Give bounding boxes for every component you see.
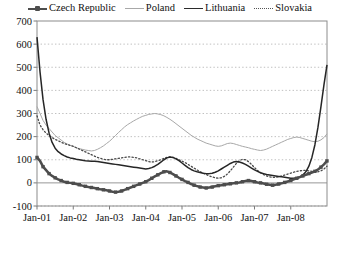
legend-line-icon-lithuania: [184, 4, 203, 13]
ytick-label-500: 500: [16, 62, 32, 73]
ytick-label-100: 100: [16, 154, 32, 165]
legend-item-lithuania: Lithuania: [184, 2, 245, 14]
ytick-label-700: 700: [16, 16, 32, 27]
ytick-label-400: 400: [16, 85, 32, 96]
xtick-label-Jan-04: Jan-04: [132, 212, 161, 223]
xtick-label-Jan-03: Jan-03: [96, 212, 124, 223]
xtick-label-Jan-07: Jan-07: [241, 212, 269, 223]
xtick-label-Jan-06: Jan-06: [204, 212, 232, 223]
legend-label-lithuania: Lithuania: [205, 2, 245, 14]
legend-marker-icon-czech-republic: [28, 4, 47, 13]
xtick-label-Jan-05: Jan-05: [168, 212, 196, 223]
chart-screenshot: Czech Republic Poland Lithuania Slovakia…: [0, 0, 340, 265]
xtick-label-Jan-08: Jan-08: [277, 212, 305, 223]
legend-item-slovakia: Slovakia: [254, 2, 312, 14]
chart-plot-container: -1000100200300400500600700Jan-01Jan-02Ja…: [0, 14, 340, 265]
legend-label-poland: Poland: [146, 2, 175, 14]
ytick-label-600: 600: [16, 39, 32, 50]
legend-label-czech-republic: Czech Republic: [49, 2, 116, 14]
xtick-label-Jan-02: Jan-02: [59, 212, 87, 223]
ytick-label-200: 200: [16, 131, 32, 142]
legend-item-poland: Poland: [125, 2, 175, 14]
ytick-label-300: 300: [16, 108, 32, 119]
chart-legend: Czech Republic Poland Lithuania Slovakia: [0, 1, 340, 15]
legend-dotted-icon-slovakia: [254, 4, 273, 13]
legend-item-czech-republic: Czech Republic: [28, 2, 116, 14]
xtick-label-Jan-01: Jan-01: [23, 212, 51, 223]
legend-line-icon-poland: [125, 4, 144, 13]
series-line-slovakia: [37, 116, 327, 178]
line-chart: -1000100200300400500600700Jan-01Jan-02Ja…: [0, 14, 340, 265]
ytick-label-0: 0: [27, 177, 32, 188]
series-line-lithuania: [37, 37, 327, 178]
legend-label-slovakia: Slovakia: [275, 2, 312, 14]
ytick-label--100: -100: [13, 201, 32, 212]
